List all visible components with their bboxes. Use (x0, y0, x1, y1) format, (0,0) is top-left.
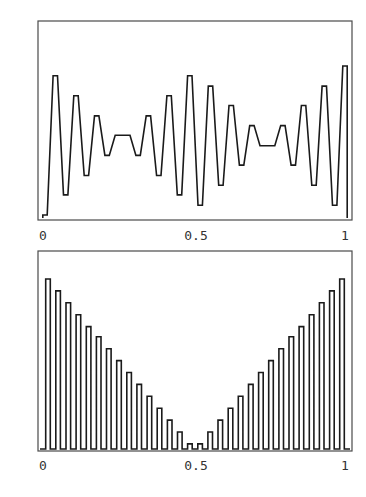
bottom-plot-frame (38, 251, 352, 451)
bottom-x-tick-0.5: 0.5 (184, 459, 207, 472)
bottom-pulse-trace (40, 279, 350, 449)
bottom-x-tick-0: 0 (39, 459, 47, 472)
bottom-x-tick-1: 1 (341, 459, 349, 472)
bottom-pulse-plot (0, 0, 366, 497)
bottom-chart-panel: 0 0.5 1 (0, 0, 366, 497)
